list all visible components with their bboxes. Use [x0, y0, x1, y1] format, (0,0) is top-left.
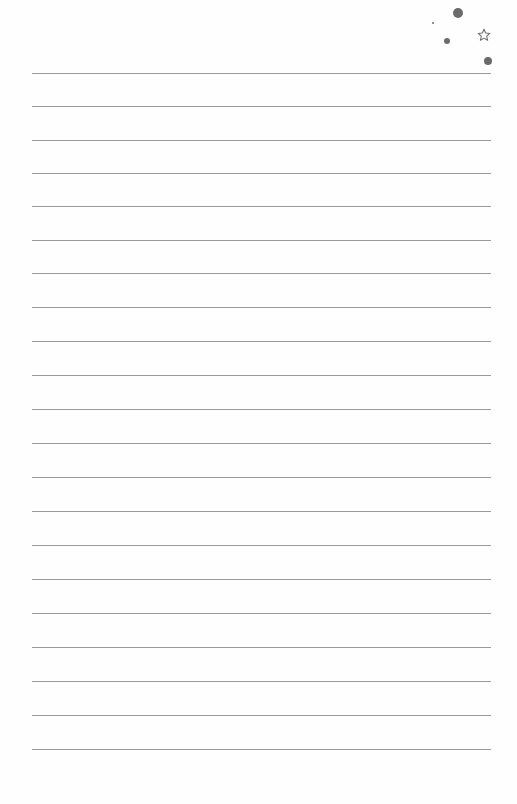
- ruled-line: [32, 140, 491, 141]
- ruled-line: [32, 273, 491, 274]
- ruled-line: [32, 613, 491, 614]
- ruled-line: [32, 749, 491, 750]
- ruled-line: [32, 206, 491, 207]
- large-dot-top-icon: [453, 8, 463, 18]
- ruled-line: [32, 477, 491, 478]
- ruled-line: [32, 409, 491, 410]
- ruled-line: [32, 307, 491, 308]
- notebook-page: [0, 0, 517, 804]
- ruled-line: [32, 73, 491, 74]
- ruled-line: [32, 511, 491, 512]
- ruled-line: [32, 341, 491, 342]
- ruled-line: [32, 681, 491, 682]
- dot-right-icon: [484, 57, 492, 65]
- ruled-line: [32, 647, 491, 648]
- star-outline-icon: [477, 28, 491, 42]
- ruled-line: [32, 106, 491, 107]
- ruled-line: [32, 240, 491, 241]
- tiny-dot-icon: [432, 22, 434, 24]
- ruled-line: [32, 545, 491, 546]
- ruled-line: [32, 375, 491, 376]
- ruled-line: [32, 173, 491, 174]
- ruled-line: [32, 715, 491, 716]
- ruled-line: [32, 579, 491, 580]
- small-dot-icon: [444, 38, 450, 44]
- ruled-line: [32, 443, 491, 444]
